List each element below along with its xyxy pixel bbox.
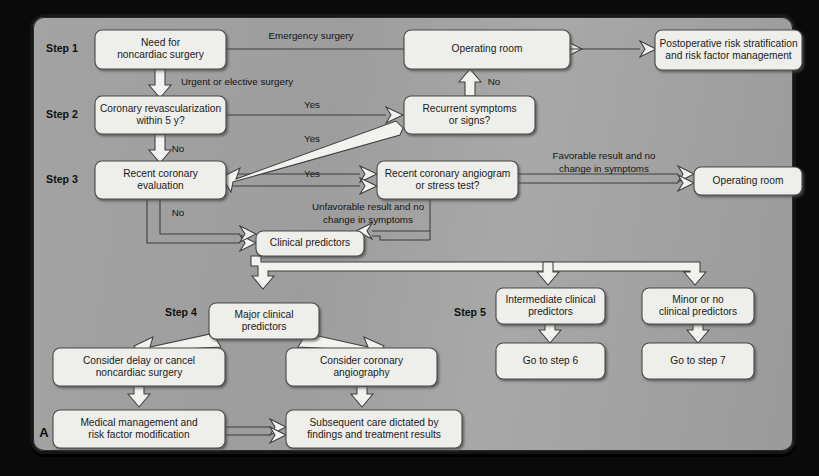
node-recentcor[interactable]: Recent coronaryevaluation (95, 161, 226, 199)
node-coroangio[interactable]: Consider coronaryangiography (286, 348, 437, 386)
node-label-recentcor: Recent coronary (123, 168, 199, 179)
node-label-minor: clinical predictors (659, 306, 737, 317)
node-major[interactable]: Major clinicalpredictors (209, 303, 319, 339)
node-postop[interactable]: Postoperative risk stratificationand ris… (655, 30, 802, 70)
node-label-clinpred: Clinical predictors (270, 237, 350, 248)
node-or_right[interactable]: Operating room (694, 167, 802, 195)
edge-label-emergency: Emergency surgery (269, 30, 354, 41)
figure-stage: Need fornoncardiac surgeryOperating room… (0, 0, 819, 476)
edge-label-unfavorable: Unfavorable result and nochange in sympt… (312, 201, 425, 224)
edge-label-urgent: Urgent or elective surgery (181, 76, 293, 87)
edge-label-favorable: Favorable result and nochange in symptom… (553, 150, 656, 173)
node-label-recurrent: Recurrent symptoms (423, 103, 517, 114)
edge-label-text-urgent: Urgent or elective surgery (181, 76, 293, 87)
edge-need-to-revasc-urgent (149, 69, 171, 98)
node-delay[interactable]: Consider delay or cancelnoncardiac surge… (53, 348, 225, 386)
node-label-angiogram: or stress test? (416, 180, 480, 191)
edge-label-yes1: Yes (304, 99, 320, 110)
step-label-step2: Step 2 (46, 108, 78, 120)
edge-label-text-unfavorable: Unfavorable result and no (312, 201, 425, 212)
node-label-intermediate: predictors (528, 306, 573, 317)
edge-label-text-yes2: Yes (304, 133, 320, 144)
node-label-subsequent: findings and treatment results (307, 429, 441, 440)
node-label-need: Need for (141, 37, 181, 48)
edge-label-no_recurrent: No (488, 76, 501, 87)
edge-delay-to-medmgmt (128, 386, 150, 407)
edge-label-no_recent: No (172, 207, 185, 218)
node-revasc[interactable]: Coronary revascularizationwithin 5 y? (95, 96, 226, 134)
node-label-medmgmt: Medical management and (80, 417, 198, 428)
edge-medmgmt-to-subsequent (225, 419, 286, 443)
panel-letter: A (39, 425, 49, 440)
node-label-or_top: Operating room (452, 43, 523, 54)
node-label-major: predictors (242, 321, 287, 332)
node-recurrent[interactable]: Recurrent symptomsor signs? (404, 96, 535, 134)
step-label-step4: Step 4 (165, 306, 197, 318)
node-intermediate[interactable]: Intermediate clinicalpredictors (496, 288, 605, 324)
node-gostep6[interactable]: Go to step 6 (496, 343, 605, 379)
edge-label-no_revasc: No (172, 143, 185, 154)
node-angiogram[interactable]: Recent coronary angiogramor stress test? (377, 161, 518, 199)
node-label-angiogram: Recent coronary angiogram (385, 168, 511, 179)
node-label-recentcor: evaluation (137, 180, 183, 191)
step-label-step5: Step 5 (454, 306, 486, 318)
node-minor[interactable]: Minor or noclinical predictors (642, 288, 754, 324)
edge-label-yes3: Yes (304, 168, 320, 179)
node-label-medmgmt: risk factor modification (88, 429, 189, 440)
edge-operating-room-to-postop (570, 41, 656, 57)
edge-label-text-yes1: Yes (304, 99, 320, 110)
node-clinpred[interactable]: Clinical predictors (256, 231, 364, 256)
node-group: Need fornoncardiac surgeryOperating room… (53, 30, 802, 448)
node-label-major: Major clinical (235, 309, 294, 320)
edge-label-text-no_revasc: No (172, 143, 185, 154)
node-label-postop: and risk factor management (665, 50, 791, 61)
edge-revasc-no-to-recent (149, 134, 171, 163)
node-label-coroangio: angiography (333, 367, 390, 378)
node-label-intermediate: Intermediate clinical (505, 294, 595, 305)
step-label-step3: Step 3 (46, 173, 78, 185)
node-label-or_right: Operating room (713, 175, 784, 186)
edge-minor-to-gostep7 (687, 324, 709, 343)
node-label-subsequent: Subsequent care dictated by (309, 417, 439, 428)
edge-label-text-yes3: Yes (304, 168, 320, 179)
node-label-minor: Minor or no (672, 294, 724, 305)
node-label-need: noncardiac surgery (117, 49, 205, 60)
node-label-recurrent: or signs? (449, 115, 491, 126)
edge-label-text-unfavorable: change in symptoms (323, 214, 413, 225)
flowchart-svg: Need fornoncardiac surgeryOperating room… (0, 0, 819, 476)
node-label-delay: noncardiac surgery (96, 367, 184, 378)
node-label-revasc: Coronary revascularization (100, 103, 221, 114)
node-or_top[interactable]: Operating room (404, 30, 570, 69)
node-need[interactable]: Need fornoncardiac surgery (95, 30, 226, 69)
edge-coroangio-to-subsequent (351, 386, 373, 407)
edge-label-yes2: Yes (304, 133, 320, 144)
node-medmgmt[interactable]: Medical management andrisk factor modifi… (53, 410, 225, 448)
step-label-step1: Step 1 (46, 42, 78, 54)
edge-clinical-predictors-branch-bus (251, 256, 706, 289)
node-label-delay: Consider delay or cancel (83, 355, 195, 366)
node-label-gostep7: Go to step 7 (670, 355, 726, 366)
node-gostep7[interactable]: Go to step 7 (642, 343, 754, 379)
edge-label-text-favorable: change in symptoms (559, 163, 649, 174)
edge-label-text-no_recurrent: No (488, 76, 501, 87)
node-label-gostep6: Go to step 6 (523, 355, 579, 366)
edge-label-text-emergency: Emergency surgery (269, 30, 354, 41)
edge-recurrent-no-to-operating-room (459, 69, 481, 96)
node-label-revasc: within 5 y? (135, 115, 184, 126)
edge-label-text-no_recent: No (172, 207, 185, 218)
node-subsequent[interactable]: Subsequent care dictated byfindings and … (286, 410, 462, 448)
node-label-coroangio: Consider coronary (320, 355, 404, 366)
edge-recent-no-to-clinical-predictors (147, 199, 256, 251)
edge-label-text-favorable: Favorable result and no (553, 150, 656, 161)
node-label-postop: Postoperative risk stratification (659, 38, 797, 49)
edge-intermediate-to-gostep6 (539, 324, 561, 343)
edge-recent-to-angiogram (226, 166, 377, 194)
